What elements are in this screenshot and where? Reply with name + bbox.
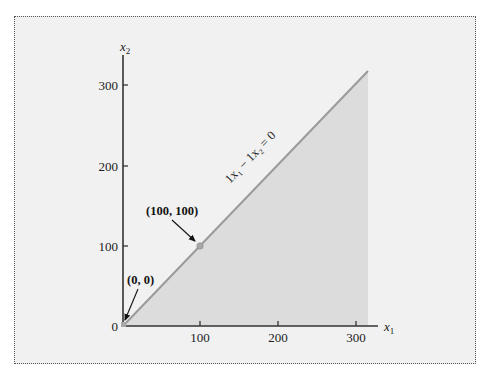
lp-graph: 100 200 300 100 200 300 0 x2 x1 (0, 0) (… [0, 0, 498, 379]
y-tick-label-300: 300 [99, 78, 119, 93]
point-label-100-100: (100, 100) [146, 204, 198, 218]
y-axis-label: x2 [119, 39, 130, 56]
x-axis-label: x1 [383, 319, 394, 336]
origin-point [121, 322, 126, 327]
point-label-origin: (0, 0) [127, 273, 154, 287]
x-tick-label-100: 100 [190, 330, 210, 345]
x-tick-label-300: 300 [346, 330, 366, 345]
y-tick-label-200: 200 [99, 159, 119, 174]
arrow-100-100 [172, 220, 195, 241]
origin-label: 0 [112, 319, 119, 334]
x-tick-label-200: 200 [268, 330, 288, 345]
y-tick-label-100: 100 [99, 239, 119, 254]
point-100-100 [197, 243, 203, 249]
